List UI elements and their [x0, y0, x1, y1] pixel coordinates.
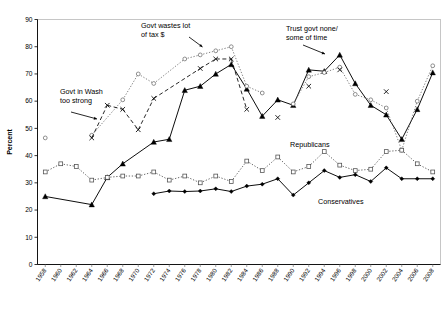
data-point-marker	[338, 175, 342, 179]
data-point-marker	[353, 169, 357, 173]
series-1	[43, 52, 436, 207]
series-line-segment	[324, 152, 340, 166]
data-point-marker	[105, 175, 109, 179]
data-point-marker	[245, 184, 249, 188]
series-line-segment	[92, 105, 108, 138]
series-line-segment	[293, 70, 309, 105]
series-line-segment	[278, 100, 294, 105]
series-line-segment	[293, 183, 309, 195]
y-axis-tick-label: 80	[25, 43, 33, 50]
annotation-govt-in-wash: Govt in Washtoo strong	[60, 87, 103, 120]
series-line-segment	[216, 47, 232, 51]
data-point-marker	[399, 137, 404, 142]
series-line-segment	[247, 89, 263, 116]
y-axis-tick-label: 10	[25, 234, 33, 241]
series-line-segment	[386, 115, 402, 139]
series-line-segment	[402, 101, 418, 150]
series-line-segment	[402, 109, 418, 139]
series-line-segment	[340, 175, 356, 178]
series-line-segment	[355, 83, 371, 105]
series-line-segment	[107, 176, 123, 177]
data-point-marker	[152, 192, 156, 196]
series-line-segment	[200, 176, 216, 183]
series-line-segment	[76, 167, 92, 181]
data-point-marker	[121, 98, 125, 102]
series-line-segment	[417, 73, 433, 110]
data-point-marker	[291, 170, 295, 174]
series-line-segment	[262, 157, 278, 171]
y-axis-tick-label: 40	[25, 152, 33, 159]
data-point-marker	[245, 159, 249, 163]
series-2	[43, 45, 434, 152]
data-point-marker	[198, 53, 202, 57]
series-line-segment	[386, 150, 402, 151]
y-axis-tick-label: 0	[29, 261, 33, 268]
series-line-segment	[154, 172, 170, 180]
data-point-marker	[229, 190, 233, 194]
data-point-marker	[415, 162, 419, 166]
series-line-segment	[169, 90, 185, 139]
series-line-segment	[402, 150, 418, 164]
data-point-marker	[121, 174, 125, 178]
x-axis-tick-label: 1982	[220, 267, 234, 283]
annotation-text: Conservatives	[318, 197, 364, 206]
series-line-segment	[185, 176, 201, 183]
data-point-marker	[431, 170, 435, 174]
series-line-segment	[417, 164, 433, 172]
x-axis-tick-label: 1988	[266, 267, 280, 283]
data-point-marker	[353, 81, 358, 86]
series-line-segment	[123, 109, 139, 129]
data-point-marker	[276, 155, 280, 159]
data-point-marker	[384, 106, 388, 110]
data-point-marker	[415, 99, 419, 103]
annotation-republicans: Republicans	[290, 140, 330, 149]
data-point-marker	[90, 178, 94, 182]
series-3	[89, 57, 388, 141]
series-4	[43, 148, 434, 184]
data-point-marker	[260, 182, 264, 186]
series-line-segment	[324, 171, 340, 178]
series-line-segment	[138, 172, 154, 176]
data-point-marker	[167, 189, 171, 193]
data-point-marker	[260, 169, 264, 173]
series-line-segment	[200, 51, 216, 55]
series-line-segment	[293, 167, 309, 172]
x-axis-tick-label: 1996	[328, 267, 342, 283]
data-point-marker	[152, 170, 156, 174]
data-point-marker	[183, 174, 187, 178]
data-point-marker	[74, 165, 78, 169]
series-line-segment	[138, 98, 154, 129]
series-line-segment	[309, 152, 325, 167]
series-line-segment	[61, 164, 77, 167]
annotation-text: some of time	[286, 33, 327, 42]
x-axis-tick-label: 1984	[235, 267, 249, 283]
series-line-segment	[169, 191, 185, 192]
data-point-marker	[214, 174, 218, 178]
data-point-marker	[369, 167, 373, 171]
x-axis-tick-label: 2002	[375, 267, 389, 283]
data-point-marker	[353, 173, 357, 177]
x-axis-tick-label: 1970	[127, 267, 141, 283]
data-point-marker	[322, 71, 326, 75]
data-point-marker	[322, 150, 326, 154]
chart-container: 0102030405060708090Percent19581960196219…	[0, 0, 448, 310]
data-point-marker	[431, 64, 435, 68]
data-point-marker	[43, 136, 47, 140]
series-line-segment	[200, 189, 216, 191]
data-point-marker	[369, 98, 373, 102]
data-point-marker	[59, 162, 63, 166]
data-point-marker	[120, 161, 125, 166]
data-point-marker	[167, 137, 172, 142]
data-point-marker	[136, 174, 140, 178]
series-line-segment	[247, 161, 263, 171]
data-point-marker	[229, 45, 233, 49]
y-axis: 0102030405060708090Percent	[6, 16, 38, 268]
data-point-marker	[43, 194, 48, 199]
series-line-segment	[355, 169, 371, 170]
series-line-segment	[340, 165, 356, 170]
data-point-marker	[43, 170, 47, 174]
chart-plot: 0102030405060708090Percent19581960196219…	[0, 0, 448, 310]
annotation-text: too strong	[60, 96, 92, 105]
series-line-segment	[371, 168, 387, 182]
x-axis-tick-label: 1968	[111, 267, 125, 283]
